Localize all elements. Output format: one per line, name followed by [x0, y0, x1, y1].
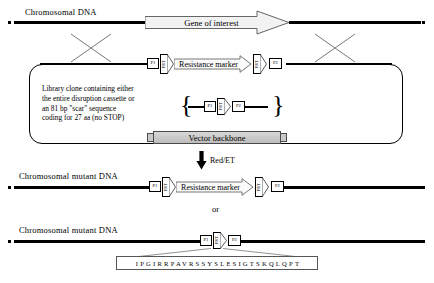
clone-line-3: an 81 bp "scar" sequence — [42, 104, 134, 114]
resistance-marker-label-mutant: Resistance marker — [176, 183, 254, 192]
red-et-reaction: Red/ET — [196, 151, 235, 170]
frt-right-cassette-label: FRT — [255, 60, 259, 69]
frt-mutant-scar-label: FRT — [215, 236, 219, 245]
dna-end-cap-left-mid — [8, 186, 11, 189]
figure-canvas: Chromosomal DNA Gene of interest P1 FRT — [0, 0, 434, 283]
mutant-dna-line-right-bottom — [241, 240, 422, 243]
clone-line-1: Library clone containing either — [42, 84, 134, 94]
red-et-label: Red/ET — [210, 156, 235, 165]
library-clone-description: Library clone containing either the enti… — [42, 84, 134, 123]
frt-scar-label: FRT — [219, 102, 223, 111]
plasmid-top-line-left — [40, 63, 148, 65]
vector-backbone-cap-left — [147, 133, 154, 142]
vector-backbone-bar: Vector backbone — [153, 131, 281, 144]
dna-end-cap-right-top — [422, 21, 425, 24]
scar-peptide-sequence-box: IPGIRRPAVRSSYSLESIGTSKQLQPT — [116, 256, 318, 270]
chromosomal-dna-line-left-top — [14, 21, 145, 24]
scar-bracket-left: { — [180, 92, 192, 118]
frt-left-mutant-tip — [169, 177, 176, 201]
primer-p1-box-mutant-scar: P1 — [200, 235, 212, 246]
primer-p2-box-scar: P2 — [232, 101, 245, 112]
frt-left-mutant-label: FRT — [164, 183, 168, 192]
primer-p2-box-mutant-scar: P2 — [228, 235, 241, 246]
primer-p1-box-scar: P1 — [204, 101, 216, 112]
resistance-marker-arrow-cassette: Resistance marker — [174, 55, 252, 73]
dna-end-cap-right-bottom — [422, 240, 425, 243]
plasmid-top-line-right — [286, 63, 392, 65]
primer-p1-box-mutant-marker: P1 — [149, 181, 161, 192]
chromosomal-dna-label-top: Chromosomal DNA — [25, 8, 97, 17]
clone-line-2: the entire disruption cassette or — [42, 94, 134, 104]
dna-end-cap-left-top — [8, 21, 11, 24]
scar-cassette-line-left — [188, 106, 204, 108]
chromosomal-dna-line-right-top — [289, 21, 421, 24]
primer-p2-box-cassette: P2 — [269, 58, 282, 69]
primer-p2-box-mutant-marker: P2 — [271, 181, 284, 192]
gene-of-interest-arrow: Gene of interest — [145, 10, 290, 35]
mutant-dna-line-left-bottom — [14, 240, 202, 243]
frt-right-mutant-tip — [262, 177, 269, 201]
scar-bracket-right: } — [272, 92, 284, 118]
frt-right-mutant-label: FRT — [257, 183, 261, 192]
or-separator: or — [212, 204, 219, 214]
mutant-dna-line-left-mid — [14, 186, 149, 189]
frt-left-cassette-label: FRT — [162, 60, 166, 69]
vector-backbone-label: Vector backbone — [189, 133, 246, 143]
dna-end-cap-right-mid — [422, 186, 425, 189]
primer-p1-box-cassette: P1 — [147, 58, 159, 69]
frt-right-cassette-tip — [260, 54, 267, 78]
vector-backbone-cap-right — [280, 133, 287, 142]
chromosomal-mutant-dna-label-scar: Chromosomal mutant DNA — [19, 226, 118, 235]
down-arrow-icon — [196, 151, 207, 170]
scar-cassette-line-right — [245, 106, 268, 108]
dna-end-cap-left-bottom — [8, 240, 11, 243]
frt-left-cassette-tip — [167, 54, 174, 78]
clone-line-4: coding for 27 aa (no STOP) — [42, 113, 134, 123]
frt-scar-tip — [224, 98, 231, 119]
resistance-marker-label-cassette: Resistance marker — [174, 60, 252, 69]
resistance-marker-arrow-mutant: Resistance marker — [176, 178, 254, 196]
chromosomal-mutant-dna-label-marker: Chromosomal mutant DNA — [19, 172, 118, 181]
mutant-dna-line-right-mid — [284, 186, 422, 189]
